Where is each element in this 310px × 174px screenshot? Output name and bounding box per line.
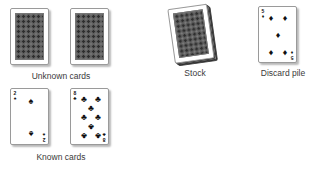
club-icon: ♣: [81, 113, 87, 122]
spade-icon: ♠: [29, 97, 34, 106]
card-corner-index: 5 ♦: [260, 9, 266, 19]
club-icon: ♣: [81, 95, 87, 104]
known-card-8-clubs: 8 ♣ ♣ ♣ ♣ ♣ ♣ ♣ ♣ ♣ 8 ♣: [70, 88, 109, 145]
known-card-2-spades: 2 ♠ ♠ ♠ 2 ♠: [10, 88, 49, 145]
unknown-card-1: [10, 8, 49, 65]
diamond-icon: ♦: [269, 14, 274, 23]
club-icon: ♣: [88, 104, 94, 113]
diamond-icon: ♦: [276, 31, 281, 40]
stock-top-card: [167, 4, 214, 64]
card-corner-index: 8 ♣: [101, 132, 107, 142]
club-icon: ♣: [72, 96, 78, 101]
spade-icon: ♠: [12, 96, 18, 101]
spade-icon: ♠: [41, 132, 47, 137]
unknown-card-2: [70, 8, 109, 65]
card-corner-index: 2 ♠: [41, 132, 47, 142]
card-corner-index: 5 ♦: [289, 50, 295, 60]
club-icon: ♣: [95, 95, 101, 104]
stock-label: Stock: [184, 68, 205, 78]
discard-card-5-diamonds: 5 ♦ ♦ ♦ ♦ ♦ ♦ 5 ♦: [258, 6, 297, 63]
club-icon: ♣: [101, 132, 107, 137]
diamond-icon: ♦: [283, 48, 288, 57]
club-icon: ♣: [81, 131, 87, 140]
club-icon: ♣: [88, 122, 94, 131]
card-corner-index: 2 ♠: [12, 91, 18, 101]
discard-pile-label: Discard pile: [261, 68, 305, 78]
unknown-cards-label: Unknown cards: [32, 71, 91, 81]
card-corner-index: 8 ♣: [72, 91, 78, 101]
club-icon: ♣: [95, 113, 101, 122]
diamond-icon: ♦: [260, 14, 266, 19]
diamond-icon: ♦: [289, 50, 295, 55]
stock-pile: [167, 3, 216, 64]
spade-icon: ♠: [29, 129, 34, 138]
known-cards-label: Known cards: [36, 152, 85, 162]
card-back-pattern: [15, 13, 44, 60]
card-back-pattern: [173, 9, 209, 58]
card-back-pattern: [75, 13, 104, 60]
diamond-icon: ♦: [283, 14, 288, 23]
diamond-icon: ♦: [269, 48, 274, 57]
